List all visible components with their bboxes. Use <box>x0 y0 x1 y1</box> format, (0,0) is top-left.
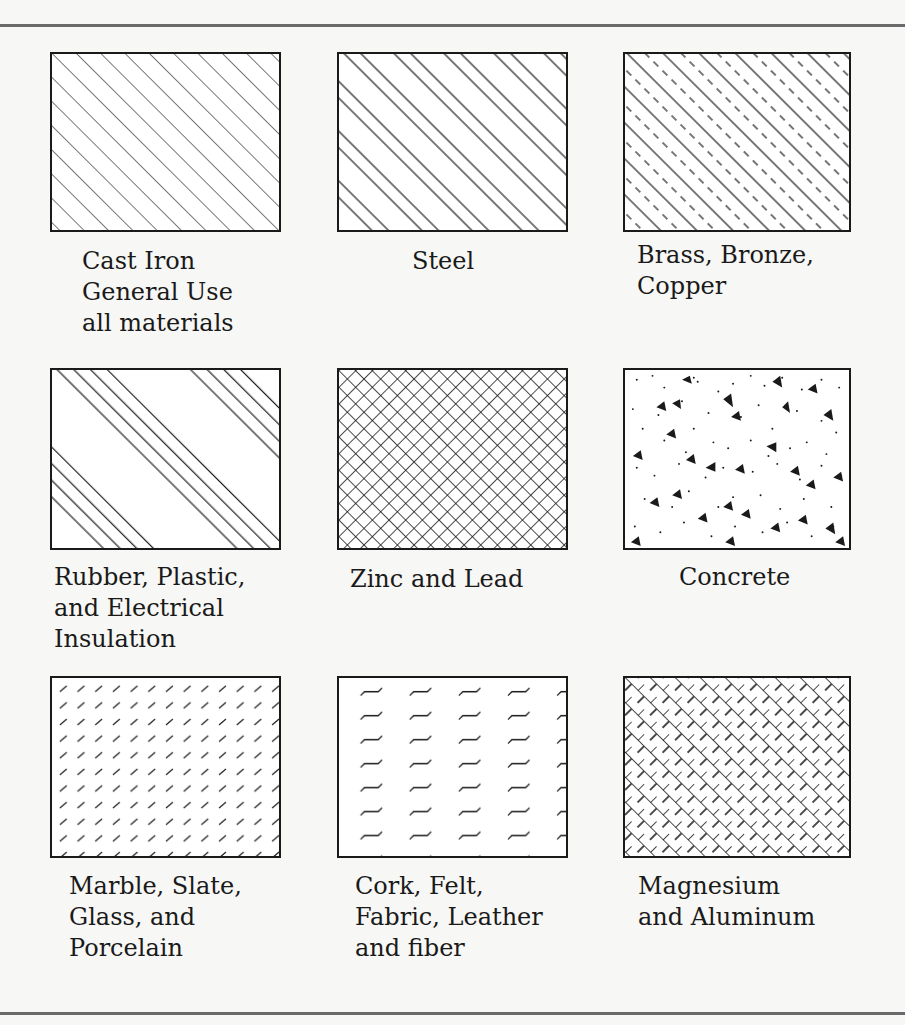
brass-swatch <box>623 52 851 232</box>
cork-swatch <box>337 676 568 858</box>
cast-iron-swatch <box>50 52 281 232</box>
rubber-swatch <box>50 368 281 550</box>
steel-swatch <box>337 52 568 232</box>
cork-label: Cork, Felt, Fabric, Leather and fiber <box>355 871 543 964</box>
bottom-rule <box>0 1012 905 1015</box>
zinc-swatch <box>337 368 568 550</box>
cast-iron-label: Cast Iron General Use all materials <box>82 246 234 339</box>
magnesium-label: Magnesium and Aluminum <box>638 871 815 933</box>
concrete-label: Concrete <box>679 562 790 593</box>
zinc-label: Zinc and Lead <box>350 564 523 595</box>
magnesium-swatch <box>623 676 851 858</box>
concrete-swatch <box>623 368 851 550</box>
marble-label: Marble, Slate, Glass, and Porcelain <box>69 871 242 964</box>
rubber-label: Rubber, Plastic, and Electrical Insulati… <box>54 562 245 655</box>
brass-label: Brass, Bronze, Copper <box>637 240 814 302</box>
marble-swatch <box>50 676 281 858</box>
top-rule <box>0 24 905 27</box>
steel-label: Steel <box>412 246 474 277</box>
